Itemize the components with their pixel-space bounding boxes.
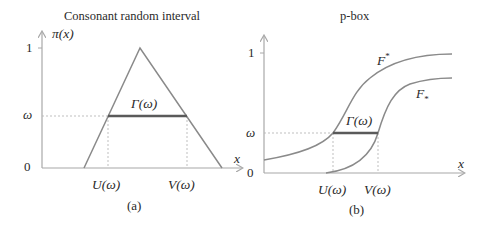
upper-cdf-curve: [264, 54, 452, 160]
lower-cdf-curve: [326, 78, 452, 173]
panel-b-u-label: U(ω): [318, 182, 346, 198]
panel-b-gamma-label: Γ(ω): [346, 113, 372, 129]
lower-curve-label-base: F: [416, 86, 424, 101]
panel-a-title: Consonant random interval: [64, 9, 200, 24]
upper-curve-label: F*: [377, 51, 390, 69]
panel-a-v-label: V(ω): [168, 177, 195, 193]
panel-a-tick-omega-label: ω: [23, 107, 32, 123]
lower-curve-label-sub: *: [424, 94, 429, 104]
panel-b-title: p-box: [340, 9, 369, 24]
upper-curve-label-sup: *: [385, 51, 390, 61]
panel-b-x-axis-label: x: [458, 156, 464, 172]
panel-a-gamma-label: Γ(ω): [131, 96, 157, 112]
panel-a-u-label: U(ω): [92, 177, 120, 193]
upper-curve-label-base: F: [377, 53, 385, 68]
panel-b-v-label: V(ω): [364, 182, 391, 198]
panel-a-tick-0-label: 0: [24, 159, 31, 175]
panel-b-tick-0-label: 0: [247, 165, 254, 181]
lower-curve-label: F*: [416, 86, 429, 104]
panel-a-y-axis-label: π(x): [52, 26, 74, 42]
panel-b-tick-1-label: 1: [248, 45, 255, 61]
panel-a-caption: (a): [127, 198, 141, 214]
panel-a-x-axis-label: x: [234, 151, 240, 167]
panel-b-caption: (b): [349, 202, 364, 218]
panel-a-tick-1-label: 1: [26, 40, 33, 56]
panel-b-graphics: [260, 36, 464, 173]
panel-b-tick-omega-label: ω: [246, 125, 255, 141]
